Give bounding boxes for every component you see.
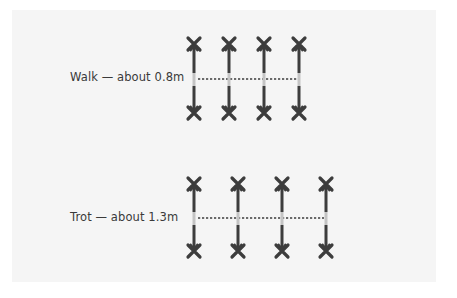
gait-diagram: [0, 0, 457, 298]
